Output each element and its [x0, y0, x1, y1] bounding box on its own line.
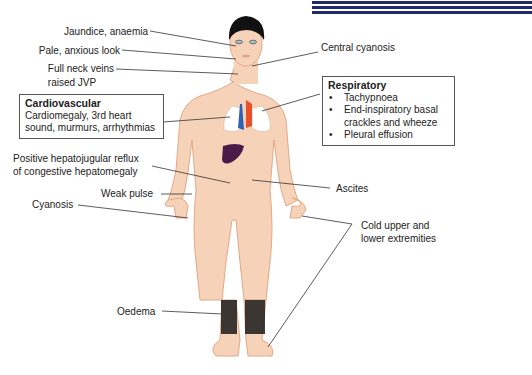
mouth [242, 55, 250, 58]
label-cold-1: Cold upper and [361, 220, 429, 232]
label-ascites: Ascites [336, 183, 368, 195]
label-neck-veins-2: raised JVP [30, 77, 114, 89]
label-weak-pulse: Weak pulse [101, 188, 153, 200]
cardiovascular-line: sound, murmurs, arrhythmias [25, 122, 158, 135]
respiratory-item: Pleural effusion [328, 129, 446, 142]
torso [168, 62, 298, 300]
left-hand [165, 198, 188, 218]
respiratory-item-continuation: crackles and wheeze [328, 117, 446, 130]
label-hepatojugular-1: Positive hepatojugular reflux [13, 153, 139, 165]
left-eye [236, 40, 243, 44]
label-oedema: Oedema [117, 306, 155, 318]
respiratory-list: Tachypnoea End-inspiratory basal crackle… [328, 92, 446, 142]
label-jaundice: Jaundice, anaemia [48, 26, 148, 38]
respiratory-box: Respiratory Tachypnoea End-inspiratory b… [322, 76, 455, 146]
label-cyanosis: Cyanosis [32, 199, 73, 211]
label-pale: Pale, anxious look [16, 45, 120, 57]
respiratory-item: Tachypnoea [328, 92, 446, 105]
cardiovascular-title: Cardiovascular [25, 97, 158, 110]
oedema-right [245, 300, 265, 334]
aorta [246, 100, 252, 128]
label-neck-veins-1: Full neck veins [30, 63, 114, 75]
label-central-cyanosis: Central cyanosis [321, 42, 395, 54]
label-hepatojugular-2: of congestive hepatomegaly [13, 166, 138, 178]
cardiovascular-box: Cardiovascular Cardiomegaly, 3rd heart s… [19, 94, 164, 139]
label-cold-2: lower extremities [361, 233, 436, 245]
cardiovascular-line: Cardiomegaly, 3rd heart [25, 110, 158, 123]
respiratory-item: End-inspiratory basal [328, 104, 446, 117]
respiratory-title: Respiratory [328, 79, 446, 92]
oedema-left [221, 300, 237, 334]
right-eye [250, 40, 257, 44]
